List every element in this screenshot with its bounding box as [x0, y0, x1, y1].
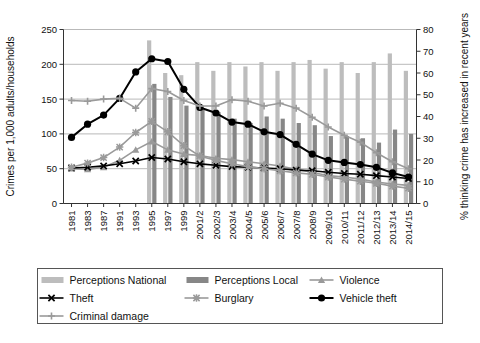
marker-vehicle-theft-0	[68, 134, 75, 141]
marker-vehicle-theft-7	[180, 86, 187, 93]
marker-burglary-4	[132, 129, 139, 136]
marker-burglary-1	[84, 159, 91, 166]
bar-1997-national	[163, 73, 167, 204]
marker-vehicle-theft-12	[260, 128, 267, 135]
legend-label-perceptions-national: Perceptions National	[70, 274, 167, 286]
x-tick-label-2004-5: 2004/5	[243, 211, 254, 240]
marker-vehicle-theft-14	[293, 141, 300, 148]
bar-2010-11-local	[345, 136, 349, 203]
marker-vehicle-theft-1	[84, 121, 91, 128]
bar-2008-9-local	[313, 125, 317, 203]
y-tick-label-right: 10	[423, 176, 434, 187]
marker-burglary-5	[148, 118, 155, 125]
y-tick-label-right: 80	[423, 24, 434, 35]
marker-burglary-19	[373, 180, 380, 187]
bar-2013-14-national	[388, 53, 392, 203]
marker-vehicle-theft-4	[132, 68, 139, 75]
bar-2013-14-local	[393, 130, 397, 204]
legend-label-burglary: Burglary	[215, 292, 255, 304]
y-tick-label-right: 60	[423, 68, 434, 79]
y-tick-label-left: 250	[41, 24, 57, 35]
legend-swatch-perceptions-local	[187, 277, 209, 283]
x-tick-label-1983: 1983	[82, 211, 93, 232]
x-tick-label-1997: 1997	[162, 211, 173, 232]
legend-label-perceptions-local: Perceptions Local	[215, 274, 298, 286]
y-tick-label-right: 40	[423, 111, 434, 122]
x-tick-label-2013-14: 2013/14	[387, 211, 398, 245]
marker-vehicle-theft-20	[389, 169, 396, 176]
y-tick-label-left: 100	[41, 128, 57, 139]
legend-marker-burglary	[193, 294, 200, 301]
y-axis-title-left: Crimes per 1,000 adults/households	[5, 36, 16, 196]
x-tick-label-2014-15: 2014/15	[403, 211, 414, 245]
x-tick-label-1995: 1995	[146, 211, 157, 232]
marker-burglary-0	[68, 164, 75, 171]
crime-statistics-chart: 0501001502002500102030405060708019811983…	[0, 0, 480, 343]
marker-burglary-2	[100, 154, 107, 161]
y-axis-title-right: % thinking crime has increased in recent…	[459, 13, 470, 220]
legend-marker-vehicle-theft	[318, 294, 325, 301]
marker-burglary-15	[309, 171, 316, 178]
marker-burglary-9	[212, 157, 219, 164]
marker-burglary-11	[244, 163, 251, 170]
bar-2009-10-national	[324, 69, 328, 204]
legend-swatch-perceptions-national	[42, 277, 64, 283]
x-tick-label-1991: 1991	[114, 211, 125, 232]
marker-vehicle-theft-21	[405, 173, 412, 180]
marker-burglary-20	[389, 182, 396, 189]
x-tick-label-2001-2: 2001/2	[194, 211, 205, 240]
legend-label-violence: Violence	[340, 274, 380, 286]
marker-violence-4	[132, 146, 139, 152]
marker-burglary-6	[164, 128, 171, 135]
line-series-burglary	[68, 118, 412, 192]
marker-vehicle-theft-17	[341, 159, 348, 166]
y-tick-label-right: 50	[423, 89, 434, 100]
marker-burglary-3	[116, 143, 123, 150]
marker-criminal-damage-0	[68, 97, 75, 104]
y-tick-label-left: 0	[52, 198, 57, 209]
y-tick-label-right: 0	[423, 198, 428, 209]
marker-vehicle-theft-10	[228, 118, 235, 125]
bar-2014-15-national	[404, 71, 408, 204]
bar-group	[147, 40, 413, 203]
bar-2008-9-national	[308, 60, 312, 204]
bar-1999-national	[179, 75, 183, 203]
marker-burglary-8	[196, 152, 203, 159]
y-tick-label-right: 70	[423, 46, 434, 57]
marker-burglary-21	[405, 184, 412, 191]
legend-label-theft: Theft	[70, 292, 94, 304]
marker-vehicle-theft-13	[277, 131, 284, 138]
legend-label-vehicle-theft: Vehicle theft	[340, 292, 397, 304]
bar-2007-8-national	[291, 62, 295, 203]
y-tick-label-right: 30	[423, 133, 434, 144]
x-tick-label-2011-12: 2011/12	[355, 211, 366, 245]
marker-vehicle-theft-15	[309, 150, 316, 157]
legend: Perceptions NationalPerceptions LocalVio…	[38, 269, 443, 324]
x-tick-label-1993: 1993	[130, 211, 141, 232]
bar-2004-5-national	[243, 66, 247, 203]
marker-burglary-18	[357, 178, 364, 185]
marker-vehicle-theft-16	[325, 157, 332, 164]
x-tick-label-2005-6: 2005/6	[259, 211, 270, 240]
marker-vehicle-theft-2	[100, 112, 107, 119]
chart-canvas: 0501001502002500102030405060708019811983…	[0, 0, 480, 343]
y-tick-label-right: 20	[423, 155, 434, 166]
marker-vehicle-theft-9	[212, 109, 219, 116]
marker-burglary-14	[292, 169, 299, 176]
marker-vehicle-theft-6	[164, 58, 171, 65]
marker-vehicle-theft-19	[373, 164, 380, 171]
marker-vehicle-theft-11	[244, 121, 251, 128]
x-tick-label-2007-8: 2007/8	[291, 211, 302, 240]
marker-criminal-damage-2	[100, 96, 107, 103]
bar-2003-4-national	[227, 62, 231, 203]
y-tick-label-left: 50	[46, 163, 57, 174]
x-tick-label-2008-9: 2008/9	[307, 211, 318, 240]
marker-burglary-17	[341, 175, 348, 182]
x-tick-label-2009-10: 2009/10	[323, 211, 334, 245]
marker-burglary-13	[276, 167, 283, 174]
bar-2002-3-national	[211, 71, 215, 204]
y-tick-label-left: 150	[41, 94, 57, 105]
x-tick-label-1987: 1987	[98, 211, 109, 232]
marker-burglary-16	[325, 173, 332, 180]
x-tick-label-2003-4: 2003/4	[227, 211, 238, 240]
